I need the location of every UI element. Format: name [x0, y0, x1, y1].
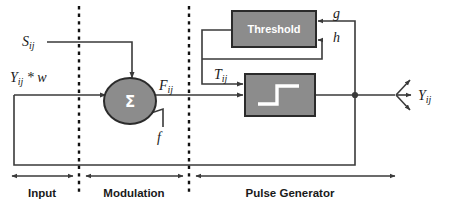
label-decay-g: g [333, 6, 340, 21]
label-modulated: Fij [158, 78, 173, 95]
wire-output-fan-up [396, 80, 410, 95]
step-function-block-body [245, 74, 315, 116]
section-label-pulse-generator: Pulse Generator [246, 187, 335, 199]
label-linking: f [157, 130, 163, 145]
step-function-block[interactable] [245, 74, 315, 116]
wire-stimulus [47, 42, 132, 78]
pcnn-block-diagram: Threshold Σ Sij Yij * w Fij f Tij g h Yi… [0, 0, 451, 208]
label-decay-h: h [333, 30, 340, 45]
label-output: Yij [418, 88, 432, 105]
threshold-block-label: Threshold [247, 23, 300, 35]
label-feedback-input: Yij * w [10, 70, 47, 87]
label-stimulus: Sij [22, 34, 35, 51]
label-threshold-out: Tij [214, 67, 228, 84]
section-label-modulation: Modulation [103, 187, 164, 199]
summation-symbol: Σ [125, 93, 135, 111]
wire-output-fan-down [396, 95, 410, 110]
wires [14, 21, 411, 165]
section-label-input: Input [28, 187, 56, 199]
threshold-block[interactable]: Threshold [232, 11, 316, 47]
summation-block[interactable]: Σ [104, 78, 156, 124]
output-junction-dot [352, 92, 358, 98]
